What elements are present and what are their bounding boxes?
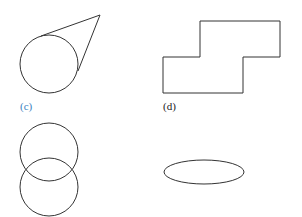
figure-e-overlapping-circles bbox=[20, 123, 78, 216]
figure-c-tangent-circle bbox=[20, 15, 100, 93]
tangent-line bbox=[41, 15, 100, 36]
circle-shape-lower bbox=[20, 158, 78, 216]
polygon-shape bbox=[163, 21, 280, 93]
figure-label-c: (c) bbox=[20, 100, 32, 112]
circle-shape-upper bbox=[20, 123, 78, 181]
ellipse-shape bbox=[164, 160, 244, 184]
figure-f-ellipse bbox=[164, 160, 244, 184]
tangent-line bbox=[78, 15, 100, 71]
figure-d-stepped-polygon bbox=[163, 21, 280, 93]
circle-shape bbox=[20, 35, 78, 93]
figure-label-d: (d) bbox=[163, 100, 176, 112]
figure-canvas bbox=[0, 0, 302, 217]
